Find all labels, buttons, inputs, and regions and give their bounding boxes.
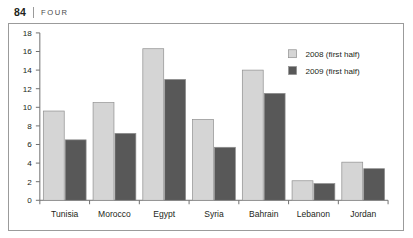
chapter-name: FOUR (41, 8, 69, 17)
bar (242, 70, 263, 200)
chart-legend: 2008 (first half)2009 (first half) (289, 50, 361, 76)
y-tick-label: 2 (27, 178, 32, 187)
bar (292, 181, 313, 201)
bar (93, 103, 114, 201)
bar (193, 119, 214, 200)
page-header: 84 FOUR (14, 5, 69, 19)
bar (115, 133, 136, 200)
bar (314, 184, 335, 201)
category-labels: TunisiaMoroccoEgyptSyriaBahrainLebanonJo… (51, 209, 376, 219)
bar (43, 111, 64, 200)
y-tick-label: 16 (23, 47, 33, 56)
x-axis (40, 200, 388, 204)
y-tick-label: 8 (27, 122, 32, 131)
bar (143, 49, 164, 201)
y-tick-label: 14 (23, 66, 33, 75)
legend-swatch (289, 50, 297, 58)
x-category-label: Tunisia (51, 209, 78, 219)
legend-label: 2008 (first half) (305, 50, 360, 59)
y-tick-label: 4 (27, 159, 32, 168)
y-tick-label: 12 (23, 85, 33, 94)
y-tick-label: 10 (23, 103, 33, 112)
y-tick-label: 18 (23, 29, 33, 38)
bar (264, 93, 285, 200)
bar (364, 169, 385, 201)
bar (342, 162, 363, 200)
header-divider (33, 7, 34, 18)
chart-frame: 024681012141618 TunisiaMoroccoEgyptSyria… (8, 23, 404, 231)
y-tick-label: 6 (27, 140, 32, 149)
page-number: 84 (14, 6, 26, 18)
x-category-label: Jordan (350, 209, 376, 219)
bar (165, 79, 186, 200)
x-category-label: Egypt (153, 209, 175, 219)
legend-label: 2009 (first half) (305, 67, 360, 76)
legend-swatch (289, 67, 297, 75)
x-category-label: Bahrain (249, 209, 279, 219)
x-category-label: Syria (204, 209, 224, 219)
bar-chart: 024681012141618 TunisiaMoroccoEgyptSyria… (9, 24, 403, 230)
bar (65, 140, 86, 200)
x-category-label: Lebanon (297, 209, 330, 219)
y-tick-label: 0 (27, 196, 32, 205)
bar (214, 147, 235, 200)
x-category-label: Morocco (98, 209, 131, 219)
y-axis: 024681012141618 (23, 29, 40, 205)
